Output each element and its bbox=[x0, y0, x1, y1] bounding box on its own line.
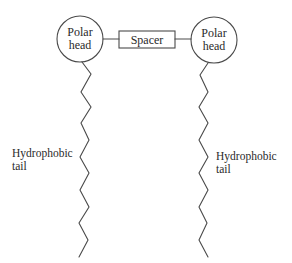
right-tail-label-line1: Hydrophobic bbox=[216, 150, 277, 163]
spacer-label: Spacer bbox=[131, 33, 164, 47]
left-head-label-line1: Polar bbox=[67, 25, 92, 39]
gemini-surfactant-diagram: Polar head Spacer Polar head bbox=[0, 0, 292, 263]
left-tail-label-line1: Hydrophobic bbox=[12, 147, 73, 160]
left-head-label-line2: head bbox=[69, 38, 92, 52]
right-hydrophobic-tail bbox=[199, 63, 208, 257]
right-tail-label: Hydrophobic tail bbox=[216, 150, 277, 176]
right-head-label-line1: Polar bbox=[201, 26, 226, 40]
left-polar-head: Polar head bbox=[57, 16, 103, 62]
left-tail-label-line2: tail bbox=[12, 160, 73, 173]
left-tail-label: Hydrophobic tail bbox=[12, 147, 73, 173]
right-polar-head: Polar head bbox=[191, 17, 237, 63]
right-tail-label-line2: tail bbox=[216, 163, 277, 176]
right-head-label-line2: head bbox=[203, 39, 226, 53]
left-hydrophobic-tail bbox=[79, 62, 91, 257]
spacer: Spacer bbox=[119, 31, 175, 48]
